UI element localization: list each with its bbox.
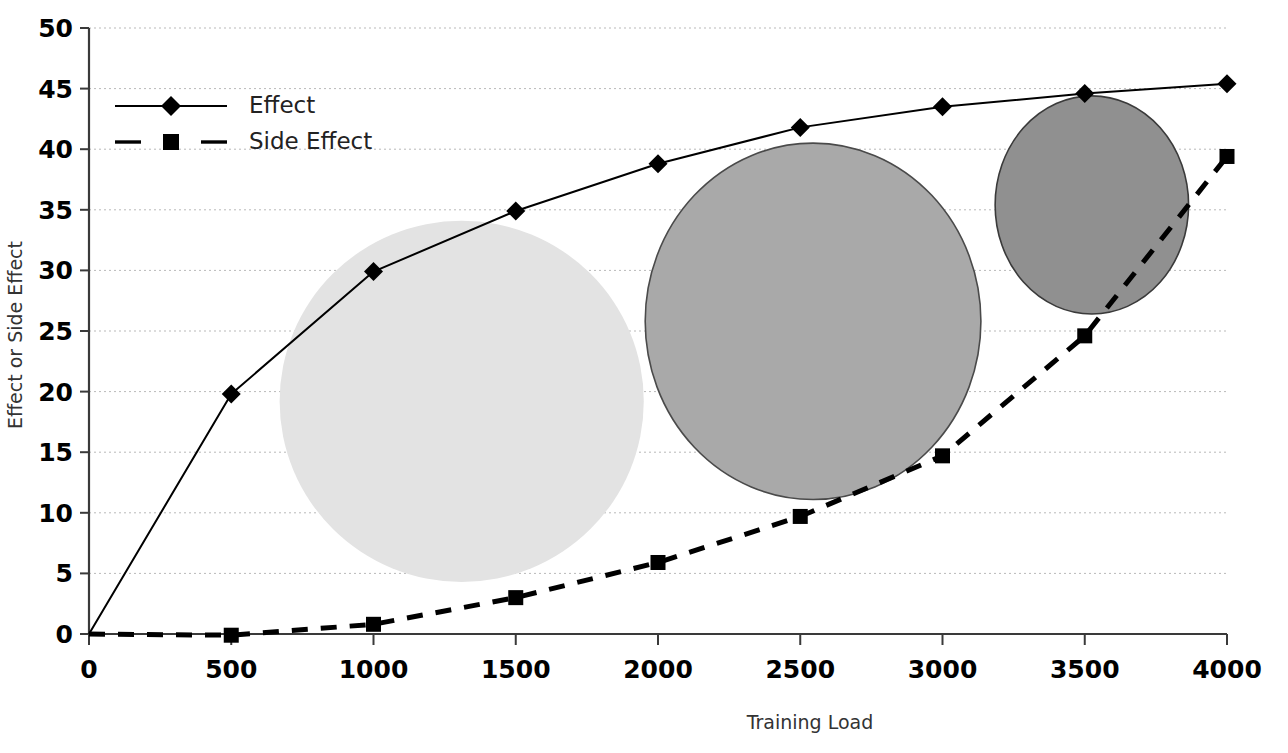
data-point-marker (651, 555, 666, 570)
y-axis-title: Effect or Side Effect (4, 241, 26, 429)
x-tick-label: 1500 (481, 655, 551, 684)
y-tick-label: 35 (38, 196, 73, 225)
y-tick-label: 30 (38, 256, 73, 285)
x-tick-label: 0 (80, 655, 97, 684)
y-tick-label: 45 (38, 75, 73, 104)
y-tick-label: 0 (56, 620, 73, 649)
y-tick-label: 25 (38, 317, 73, 346)
x-tick-label: 1000 (339, 655, 409, 684)
ellipse-light (280, 221, 644, 582)
legend-label: Side Effect (249, 128, 372, 154)
data-point-marker (793, 509, 808, 524)
x-axis-title: Training Load (746, 711, 874, 733)
data-point-marker (1220, 149, 1235, 164)
x-tick-label: 3000 (908, 655, 978, 684)
chart-container: 05101520253035404550 0500100015002000250… (0, 0, 1288, 753)
line-chart: 05101520253035404550 0500100015002000250… (0, 0, 1288, 753)
x-tick-label: 2000 (623, 655, 693, 684)
legend-label: Effect (249, 92, 315, 118)
data-point-marker (1077, 328, 1092, 343)
ellipse-dark (995, 96, 1188, 314)
y-tick-label: 20 (38, 378, 73, 407)
y-tick-label: 50 (38, 14, 73, 43)
data-point-marker (935, 448, 950, 463)
data-point-marker (508, 590, 523, 605)
y-tick-label: 40 (38, 135, 73, 164)
y-tick-label: 15 (38, 438, 73, 467)
data-point-marker (366, 617, 381, 632)
legend-marker-square (163, 134, 179, 150)
x-tick-label: 2500 (765, 655, 835, 684)
y-tick-label: 5 (56, 559, 73, 588)
y-tick-label: 10 (38, 499, 73, 528)
x-tick-label: 3500 (1050, 655, 1120, 684)
data-point-marker (224, 628, 239, 643)
chart-legend: EffectSide Effect (107, 82, 407, 154)
x-tick-label: 500 (205, 655, 257, 684)
ellipse-medium (645, 143, 981, 499)
x-tick-label: 4000 (1192, 655, 1262, 684)
